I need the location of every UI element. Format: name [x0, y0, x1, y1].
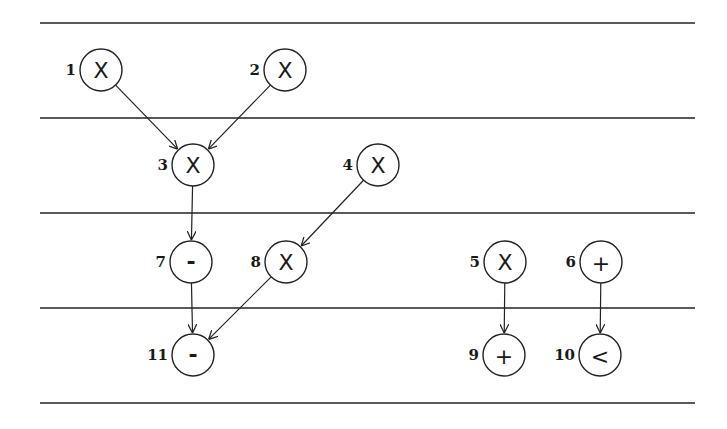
node-operator: X — [497, 250, 512, 275]
node-id-label: 5 — [470, 253, 480, 271]
node-operator: X — [185, 153, 200, 178]
node-10: <10 — [554, 334, 621, 376]
node-operator: X — [278, 250, 293, 275]
node-4: X4 — [343, 144, 399, 186]
node-operator: - — [186, 249, 195, 274]
node-operator: < — [591, 344, 609, 369]
node-id-label: 11 — [147, 346, 168, 364]
node-8: X8 — [251, 241, 307, 283]
node-2: X2 — [250, 49, 306, 91]
edge-arrow-3-to-7 — [191, 186, 192, 240]
edge-arrow-2-to-3 — [208, 85, 270, 149]
node-id-label: 8 — [251, 253, 261, 271]
node-operator: + — [592, 251, 610, 276]
dataflow-diagram: X1X2X3X4-7X8X5+6-11+9<10 — [0, 0, 727, 429]
node-id-label: 6 — [566, 253, 576, 271]
node-operator: X — [277, 58, 292, 83]
node-id-label: 7 — [156, 253, 166, 271]
node-1: X1 — [66, 49, 122, 91]
node-11: -11 — [147, 334, 214, 376]
node-id-label: 4 — [343, 156, 353, 174]
node-operator: X — [93, 58, 108, 83]
node-id-label: 1 — [66, 61, 76, 79]
node-6: +6 — [566, 241, 622, 283]
node-7: -7 — [156, 241, 212, 283]
node-5: X5 — [470, 241, 526, 283]
node-id-label: 9 — [469, 346, 479, 364]
node-3: X3 — [158, 144, 214, 186]
node-operator: - — [188, 342, 197, 367]
edge-arrow-7-to-11 — [191, 283, 192, 333]
node-operator: X — [370, 153, 385, 178]
edge-arrow-5-to-9 — [504, 283, 505, 333]
node-id-label: 2 — [250, 61, 260, 79]
edge-arrow-6-to-10 — [600, 283, 601, 333]
node-operator: + — [495, 344, 513, 369]
node-9: +9 — [469, 334, 525, 376]
node-id-label: 3 — [158, 156, 168, 174]
edge-arrow-1-to-3 — [116, 85, 178, 149]
node-id-label: 10 — [554, 346, 575, 364]
